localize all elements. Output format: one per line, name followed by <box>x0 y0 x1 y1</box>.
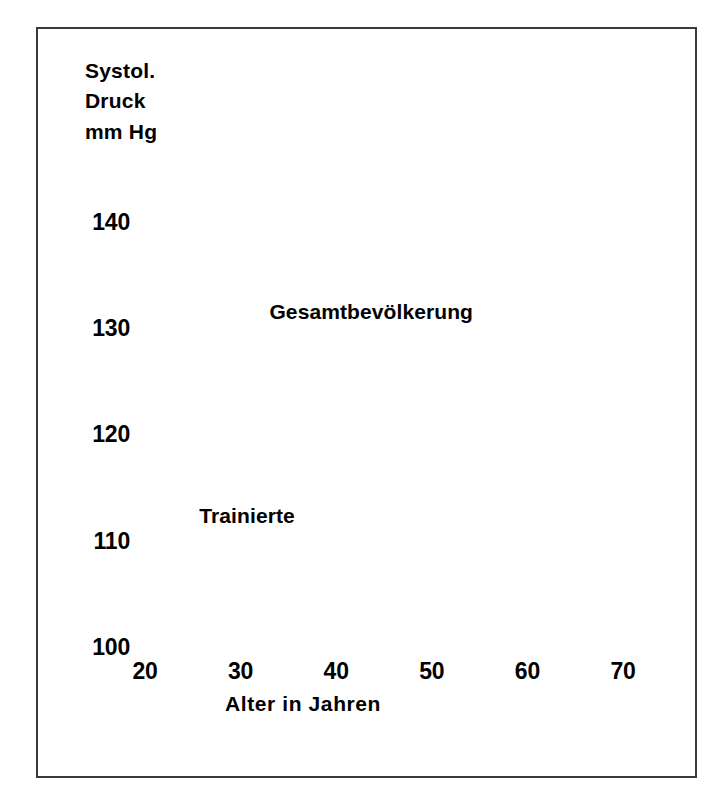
y-tick-label: 100 <box>68 634 130 661</box>
y-tick-label: 110 <box>68 528 130 555</box>
series-label-trained: Trainierte <box>199 504 295 528</box>
x-tick-label: 40 <box>309 658 363 685</box>
y-axis-title: Systol. Druck mm Hg <box>85 56 157 147</box>
x-axis-title: Alter in Jahren <box>225 692 381 716</box>
x-tick-label: 50 <box>405 658 459 685</box>
chart-figure: Systol. Druck mm Hg Alter in Jahren 1001… <box>0 0 724 799</box>
x-tick-label: 20 <box>118 658 172 685</box>
y-tick-label: 120 <box>68 421 130 448</box>
series-label-population: Gesamtbevölkerung <box>269 300 473 324</box>
x-tick-label: 70 <box>596 658 650 685</box>
y-tick-label: 140 <box>68 209 130 236</box>
x-tick-label: 30 <box>214 658 268 685</box>
y-tick-label: 130 <box>68 315 130 342</box>
x-tick-label: 60 <box>500 658 554 685</box>
